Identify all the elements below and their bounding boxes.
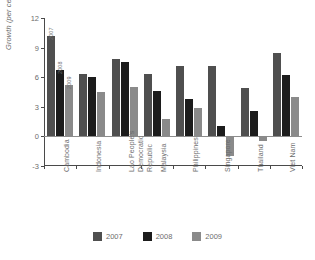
legend-swatch-2007 [93,232,102,241]
bar [144,74,152,136]
x-axis-category-label: Thailand [257,144,264,172]
bar [153,91,161,136]
legend-item-2008: 2008 [143,232,173,241]
legend-swatch-2008 [143,232,152,241]
chart-legend: 2007 2008 2009 [0,232,315,241]
x-axis-tick-mark [238,166,239,169]
x-axis-category-label: Lao People'sDemocraticRepublic [128,131,135,172]
legend-item-2009: 2009 [192,232,222,241]
bar [112,59,120,136]
legend-label-2008: 2008 [156,233,173,241]
bar [121,62,129,136]
bar [130,87,138,136]
x-axis-tick-mark [205,166,206,169]
bar [291,97,299,136]
x-axis-tick-mark [109,166,110,169]
y-axis-title: Growth (per cent) [4,0,13,70]
x-axis-category-label: Philippines [192,137,199,172]
legend-item-2007: 2007 [93,232,123,241]
y-axis-tick-mark [41,107,44,108]
legend-label-2009: 2009 [205,233,222,241]
y-axis-tick-mark [41,48,44,49]
x-axis-tick-mark [270,166,271,169]
bar [97,92,105,136]
legend-label-2007: 2007 [106,233,123,241]
bar [185,99,193,136]
bar [282,75,290,136]
bar [217,126,225,137]
bar-annotation-label: 2008 [57,62,63,75]
chart-figure: Growth (per cent) 129630-3200720082009 2… [0,0,315,260]
x-axis-tick-mark [302,166,303,169]
bar [162,119,170,137]
legend-swatch-2009 [192,232,201,241]
bar-annotation-label: 2007 [48,27,54,40]
x-axis-tick-mark [76,166,77,169]
y-axis-tick-mark [41,77,44,78]
bar [88,77,96,136]
bar-annotation-label: 2009 [66,76,72,89]
x-axis-category-label-line: Democratic [137,136,144,172]
bar [79,74,87,136]
x-axis-category-label: Indonesia [95,141,102,172]
bar [250,111,258,137]
bar [241,88,249,136]
bar [194,108,202,137]
x-axis-tick-mark [44,166,45,169]
bar [65,85,73,136]
bar [56,70,64,136]
bar [273,53,281,137]
x-axis-tick-mark [173,166,174,169]
bar [47,36,55,137]
x-axis-category-label: Viet Nam [289,143,296,172]
bar [259,136,267,141]
y-axis-tick-mark [41,136,44,137]
x-axis-category-label-line: Republic [146,144,153,172]
x-axis-category-label: Malaysia [160,144,167,172]
bar [208,66,216,136]
y-axis-line [44,18,45,166]
y-axis-tick-mark [41,18,44,19]
x-axis-category-label: Singapore [224,139,231,172]
bar [176,66,184,136]
x-axis-category-label: Cambodia [63,139,70,172]
